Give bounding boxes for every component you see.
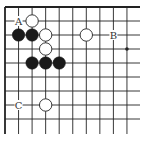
black-stone <box>26 29 38 41</box>
star-point <box>125 47 129 51</box>
black-stone <box>39 57 51 69</box>
black-stone <box>26 57 38 69</box>
point-label-c: C <box>15 100 23 111</box>
white-stone <box>26 15 38 27</box>
white-stone <box>80 29 92 41</box>
white-stone <box>39 43 51 55</box>
white-stone <box>39 99 51 111</box>
white-stone <box>39 29 51 41</box>
go-board: ABC <box>0 0 144 145</box>
black-stone <box>53 57 65 69</box>
point-label-a: A <box>14 16 23 27</box>
board-grid <box>5 7 140 134</box>
black-stone <box>12 29 24 41</box>
point-label-b: B <box>110 30 117 41</box>
star-points <box>125 47 129 51</box>
